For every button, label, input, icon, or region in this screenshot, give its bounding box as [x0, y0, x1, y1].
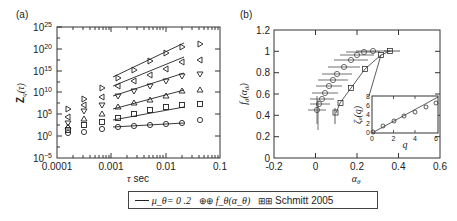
svg-text:1: 1 — [264, 46, 270, 57]
svg-text:0: 0 — [313, 161, 319, 172]
line-swatch-icon — [135, 200, 149, 201]
figure: (a) 1025 1020 1015 — [0, 0, 457, 221]
svg-text:ζθ(q): ζθ(q) — [352, 105, 364, 124]
svg-text:-0.2: -0.2 — [265, 161, 283, 172]
svg-text:0.2: 0.2 — [256, 131, 270, 142]
svg-text:0.6: 0.6 — [433, 161, 447, 172]
panel-a-ylabel: Zq(τ) — [15, 82, 28, 103]
svg-text:1025: 1025 — [33, 21, 52, 33]
svg-text:0.6: 0.6 — [256, 89, 270, 100]
panel-b-ytick-labels: 0 0.2 0.4 0.6 0.8 1 1.2 — [256, 25, 270, 164]
errorbar-square-icon: ⊞⊞ — [258, 196, 272, 206]
panel-a-fit-lines — [113, 43, 184, 127]
errorbar-circle-icon: ⊕⊕ — [199, 196, 213, 206]
svg-text:0.001: 0.001 — [98, 161, 123, 172]
svg-text:0: 0 — [370, 135, 374, 142]
panel-b-xlabel: αθ — [352, 173, 361, 186]
svg-text:q: q — [403, 139, 408, 150]
svg-text:0.4: 0.4 — [256, 110, 270, 121]
svg-text:4: 4 — [366, 111, 370, 118]
svg-text:8: 8 — [366, 93, 370, 100]
svg-text:0.8: 0.8 — [256, 67, 270, 78]
panel-a: (a) 1025 1020 1015 — [15, 9, 227, 184]
legend: μ_θ= 0 .2 ⊕⊕ f_θ(α_θ) ⊞⊞ Schmitt 2005 — [128, 191, 378, 209]
svg-text:105: 105 — [37, 108, 52, 120]
panel-b-inset: 0 2 4 6 8 0 2 4 6 q ζθ(q) — [352, 93, 438, 150]
panel-a-ytick-labels: 1025 1020 1015 1010 105 100 10−5 — [33, 21, 52, 164]
panel-b-label: (b) — [240, 9, 252, 20]
panel-a-label: (a) — [16, 9, 28, 20]
svg-text:1020: 1020 — [33, 43, 52, 55]
svg-text:4: 4 — [413, 135, 417, 142]
svg-text:2: 2 — [366, 120, 370, 127]
svg-text:0.0001: 0.0001 — [42, 161, 73, 172]
legend-series1-item: ⊕⊕ f_θ(α_θ) — [199, 195, 250, 206]
panel-b: (b) 0 0.2 0.4 0.6 0.8 1 1.2 -0.2 0 0.2 0… — [238, 9, 447, 186]
svg-text:6: 6 — [434, 135, 438, 142]
svg-text:2: 2 — [392, 135, 396, 142]
svg-text:1.2: 1.2 — [256, 25, 270, 36]
svg-text:1015: 1015 — [33, 65, 52, 77]
panel-a-markers — [65, 41, 203, 136]
svg-text:0.2: 0.2 — [350, 161, 364, 172]
legend-series2-item: ⊞⊞ Schmitt 2005 — [258, 195, 333, 206]
panel-a-xtick-labels: 0.0001 0.001 0.01 0.1 — [42, 161, 228, 172]
panel-a-frame — [57, 27, 220, 158]
svg-text:0.4: 0.4 — [392, 161, 406, 172]
svg-text:0.1: 0.1 — [213, 161, 227, 172]
svg-text:100: 100 — [37, 130, 52, 142]
panel-b-xtick-labels: -0.2 0 0.2 0.4 0.6 — [265, 161, 447, 172]
panel-b-ylabel: fθ(αθ) — [238, 83, 251, 105]
legend-line-item: μ_θ= 0 .2 — [135, 195, 191, 206]
panel-a-xlabel: τ sec — [127, 173, 149, 184]
svg-text:1010: 1010 — [33, 86, 52, 98]
svg-text:6: 6 — [366, 102, 370, 109]
svg-text:0.01: 0.01 — [156, 161, 176, 172]
panel-a-yticks — [57, 27, 220, 158]
